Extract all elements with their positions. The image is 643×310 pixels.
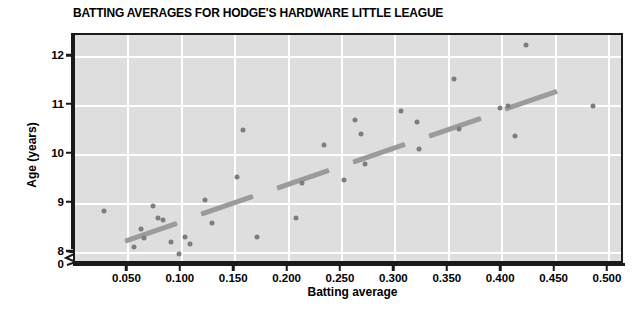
y-axis-tick-mark (66, 103, 73, 106)
scatter-point (183, 234, 188, 239)
scatter-point (498, 106, 503, 111)
x-axis-tick-label: 0.400 (486, 272, 515, 284)
trend-line-segment (429, 115, 483, 137)
x-axis-tick-label: 0.500 (593, 272, 622, 284)
gridline-vertical (127, 35, 129, 261)
x-axis-tick-label: 0.250 (326, 272, 355, 284)
gridline-horizontal (75, 56, 621, 58)
scatter-point (294, 215, 299, 220)
x-axis-tick-mark (232, 264, 235, 271)
y-axis-label: Age (years) (25, 95, 39, 215)
scatter-point (590, 103, 595, 108)
scatter-point (363, 161, 368, 166)
x-axis-tick-mark (179, 264, 182, 271)
x-axis-tick-label: 0.350 (432, 272, 461, 284)
scatter-point (352, 117, 357, 122)
scatter-point (240, 128, 245, 133)
gridline-vertical (341, 35, 343, 261)
scatter-point (321, 143, 326, 148)
gridline-horizontal (75, 252, 621, 254)
gridline-horizontal (75, 105, 621, 107)
y-axis-tick-mark (66, 201, 73, 204)
x-axis-tick-mark (606, 264, 609, 271)
scatter-point (359, 132, 364, 137)
scatter-point (414, 119, 419, 124)
gridline-vertical (608, 35, 610, 261)
scatter-point (101, 209, 106, 214)
x-axis-tick-mark (125, 264, 128, 271)
scatter-point (160, 217, 165, 222)
scatter-point (416, 147, 421, 152)
x-axis-tick-mark (446, 264, 449, 271)
gridline-horizontal (75, 154, 621, 156)
x-axis-tick-mark (392, 264, 395, 271)
scatter-point (235, 174, 240, 179)
gridline-vertical (288, 35, 290, 261)
y-axis-tick-label: 9 (40, 196, 64, 208)
scatter-point (209, 221, 214, 226)
x-axis-tick-mark (499, 264, 502, 271)
y-axis-tick-label: 12 (40, 49, 64, 61)
scatter-point (523, 42, 528, 47)
y-axis-tick-label: 11 (40, 98, 64, 110)
x-axis-tick-mark (339, 264, 342, 271)
x-axis-tick-label: 0.300 (379, 272, 408, 284)
chart-container: BATTING AVERAGES FOR HODGE'S HARDWARE LI… (0, 0, 643, 310)
scatter-point (505, 103, 510, 108)
gridline-vertical (501, 35, 503, 261)
plot-area (73, 33, 623, 263)
scatter-point (142, 236, 147, 241)
trend-line-segment (277, 168, 331, 190)
scatter-point (300, 181, 305, 186)
scatter-point (150, 204, 155, 209)
x-axis-label-text: Batting average (307, 285, 397, 299)
scatter-point (457, 127, 462, 132)
trend-line-segment (505, 89, 559, 111)
scatter-point (176, 252, 181, 257)
x-axis-tick-mark (285, 264, 288, 271)
x-axis-label: Batting average (0, 285, 643, 299)
y-axis-tick-mark (66, 54, 73, 57)
scatter-point (131, 244, 136, 249)
gridline-horizontal (75, 203, 621, 205)
scatter-point (452, 77, 457, 82)
x-axis-tick-label: 0.050 (112, 272, 141, 284)
scatter-point (398, 108, 403, 113)
scatter-point (513, 134, 518, 139)
y-axis-tick-mark (66, 250, 73, 253)
y-axis-tick-mark (66, 152, 73, 155)
y-axis-tick-label: 10 (40, 147, 64, 159)
y-axis-tick-label: 8 (40, 245, 64, 257)
x-axis-tick-label: 0.150 (219, 272, 248, 284)
scatter-point (139, 227, 144, 232)
scatter-point (342, 178, 347, 183)
scatter-point (254, 235, 259, 240)
gridline-vertical (555, 35, 557, 261)
scatter-point (203, 198, 208, 203)
y-axis-zero-label: 0 (42, 258, 64, 270)
x-axis-line (73, 263, 625, 266)
gridline-vertical (448, 35, 450, 261)
x-axis-tick-label: 0.200 (272, 272, 301, 284)
x-axis-tick-label: 0.100 (165, 272, 194, 284)
gridline-vertical (234, 35, 236, 261)
chart-title: BATTING AVERAGES FOR HODGE'S HARDWARE LI… (73, 6, 443, 20)
x-axis-tick-mark (552, 264, 555, 271)
scatter-point (188, 241, 193, 246)
trend-line-segment (353, 142, 407, 164)
gridline-vertical (181, 35, 183, 261)
trend-line-segment (201, 194, 255, 216)
x-axis-tick-label: 0.450 (539, 272, 568, 284)
scatter-point (169, 240, 174, 245)
